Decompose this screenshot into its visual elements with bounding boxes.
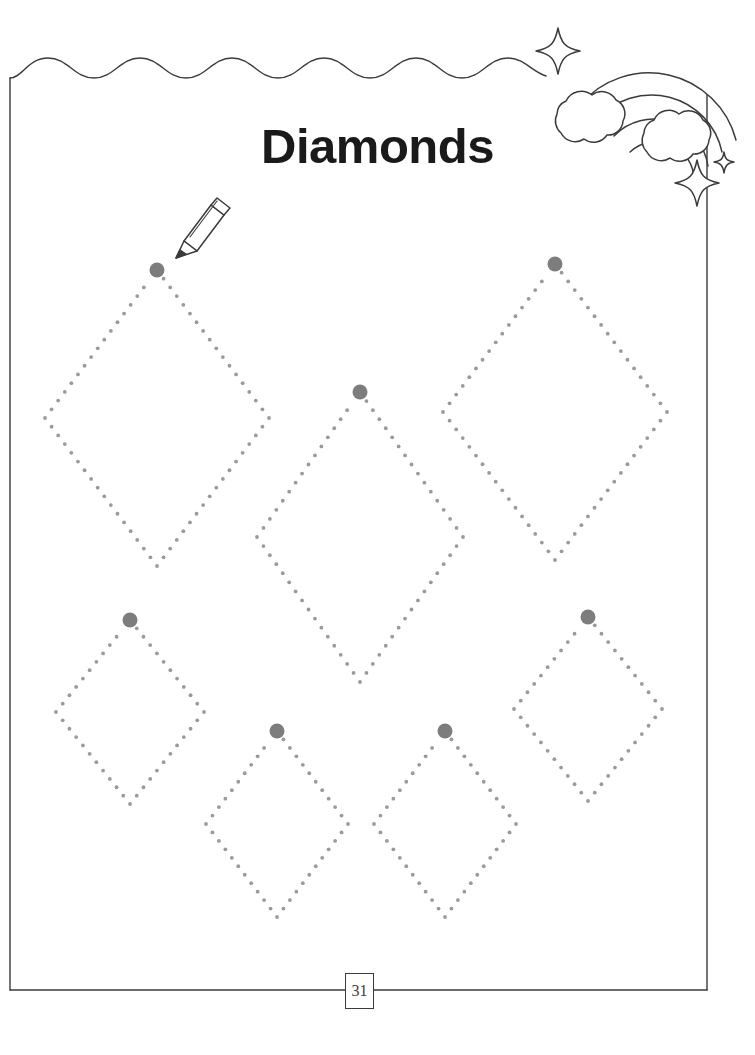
trace-dot xyxy=(442,562,446,566)
trace-dot xyxy=(333,805,337,809)
trace-dot xyxy=(346,822,350,826)
tracing-shapes-layer xyxy=(0,0,755,1055)
trace-dot xyxy=(455,544,459,548)
trace-dot xyxy=(647,724,651,728)
trace-dot xyxy=(456,898,460,902)
trace-dot xyxy=(461,384,465,388)
trace-dot xyxy=(474,454,478,458)
trace-dot xyxy=(109,503,113,507)
trace-dot xyxy=(96,486,100,490)
trace-dot xyxy=(514,506,518,510)
trace-dot xyxy=(182,685,186,689)
trace-dot xyxy=(450,907,454,911)
trace-dot xyxy=(404,864,408,868)
trace-dot xyxy=(495,847,499,851)
trace-dot xyxy=(76,460,80,464)
trace-dot xyxy=(519,715,523,719)
trace-dot xyxy=(281,499,285,503)
trace-dot xyxy=(269,907,273,911)
trace-dot xyxy=(294,481,298,485)
trace-dot xyxy=(417,763,421,767)
trace-dot xyxy=(89,477,93,481)
trace-dot xyxy=(122,521,126,525)
trace-dot xyxy=(424,890,428,894)
trace-dot xyxy=(345,408,349,412)
trace-dot xyxy=(448,553,452,557)
trace-dot xyxy=(560,271,564,275)
trace-dot xyxy=(390,435,394,439)
trace-dot xyxy=(430,746,434,750)
trace-dot xyxy=(442,508,446,512)
trace-dot xyxy=(620,757,624,761)
trace-dot xyxy=(391,797,395,801)
trace-dot xyxy=(201,329,205,333)
trace-dot xyxy=(411,873,415,877)
trace-dot xyxy=(307,463,311,467)
trace-dot xyxy=(586,515,590,519)
trace-dot xyxy=(162,555,166,559)
trace-dot xyxy=(633,741,637,745)
trace-dot xyxy=(221,355,225,359)
trace-dot xyxy=(455,526,459,530)
trace-dot xyxy=(390,635,394,639)
trace-dot xyxy=(566,280,570,284)
trace-dot xyxy=(115,785,119,789)
trace-dot xyxy=(228,364,232,368)
trace-dot xyxy=(54,710,58,714)
trace-dot xyxy=(579,297,583,301)
trace-dot xyxy=(365,671,369,675)
diamond-small-right xyxy=(512,610,664,803)
trace-dot xyxy=(168,752,172,756)
trace-dot xyxy=(481,462,485,466)
trace-dot xyxy=(467,445,471,449)
trace-dot xyxy=(294,890,298,894)
trace-dot xyxy=(613,649,617,653)
trace-dot xyxy=(533,532,537,536)
trace-dot xyxy=(61,702,65,706)
trace-dot xyxy=(448,517,452,521)
trace-dot xyxy=(540,280,544,284)
trace-dot xyxy=(612,480,616,484)
trace-dot xyxy=(411,771,415,775)
trace-dot xyxy=(211,831,215,835)
trace-dot xyxy=(50,407,54,411)
trace-dot xyxy=(274,508,278,512)
trace-dot xyxy=(168,547,172,551)
trace-dot xyxy=(547,549,551,553)
trace-dot xyxy=(573,632,577,636)
trace-dot xyxy=(81,744,85,748)
trace-dot xyxy=(533,288,537,292)
trace-dot xyxy=(108,777,112,781)
trace-start-dot xyxy=(270,724,285,739)
trace-dot xyxy=(540,541,544,545)
trace-dot xyxy=(326,435,330,439)
trace-dot xyxy=(223,797,227,801)
trace-dot xyxy=(469,763,473,767)
trace-dot xyxy=(313,617,317,621)
trace-dot xyxy=(300,472,304,476)
trace-dot xyxy=(450,738,454,742)
trace-dot xyxy=(410,608,414,612)
trace-dot xyxy=(652,428,656,432)
trace-dot xyxy=(358,680,362,684)
trace-dot xyxy=(115,635,119,639)
trace-dot xyxy=(645,384,649,388)
trace-dot xyxy=(300,599,304,603)
trace-dot xyxy=(566,640,570,644)
trace-dot xyxy=(365,399,369,403)
trace-dot xyxy=(201,503,205,507)
trace-dot xyxy=(579,791,583,795)
trace-dot xyxy=(546,749,550,753)
trace-dot xyxy=(135,794,139,798)
trace-dot xyxy=(613,766,617,770)
trace-dot xyxy=(102,494,106,498)
trace-dot xyxy=(327,797,331,801)
trace-dot xyxy=(142,635,146,639)
trace-dot xyxy=(234,460,238,464)
trace-dot xyxy=(247,390,251,394)
trace-dot xyxy=(267,416,271,420)
trace-dot xyxy=(619,349,623,353)
trace-dot xyxy=(422,589,426,593)
trace-dot xyxy=(474,367,478,371)
trace-dot xyxy=(573,782,577,786)
